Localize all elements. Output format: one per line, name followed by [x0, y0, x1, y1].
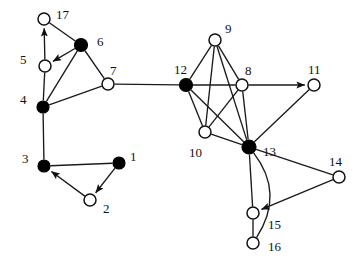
graph-edge — [49, 86, 102, 105]
graph-edge — [46, 51, 77, 101]
graph-node-label-14: 14 — [329, 155, 342, 168]
graph-node-label-13: 13 — [263, 145, 276, 158]
graph-node-label-5: 5 — [20, 53, 27, 66]
graph-edge — [85, 51, 104, 79]
graph-edge — [261, 180, 333, 210]
graph-node-label-12: 12 — [174, 63, 187, 76]
graph-edge — [189, 91, 203, 125]
graph-edge — [51, 171, 84, 196]
graph-edge — [49, 23, 75, 41]
graph-node-16[interactable] — [247, 237, 259, 249]
graph-node-label-2: 2 — [103, 202, 110, 215]
graph-figure: 1234567891011121314151617 — [0, 0, 364, 261]
graph-edge — [114, 84, 179, 85]
graph-node-label-4: 4 — [20, 93, 27, 106]
graph-edge — [96, 168, 115, 193]
graph-edge — [190, 45, 212, 79]
graph-node-label-7: 7 — [110, 64, 117, 77]
graph-node-label-15: 15 — [268, 218, 281, 231]
graph-node-label-10: 10 — [189, 146, 202, 159]
graph-edge — [43, 113, 44, 159]
graph-node-label-1: 1 — [130, 150, 137, 163]
graph-edge — [254, 89, 309, 141]
graph-edge — [249, 154, 252, 206]
graph-node-label-11: 11 — [308, 63, 321, 76]
graph-node-1[interactable] — [113, 157, 125, 169]
graph-node-5[interactable] — [39, 60, 51, 72]
graph-edge — [44, 28, 45, 59]
graph-node-17[interactable] — [38, 13, 50, 25]
graph-edge — [50, 163, 112, 165]
graph-canvas — [0, 0, 364, 261]
graph-node-label-8: 8 — [245, 64, 252, 77]
graph-node-6[interactable] — [75, 39, 88, 52]
node-layer — [37, 13, 345, 249]
graph-node-label-17: 17 — [56, 8, 69, 21]
graph-node-label-9: 9 — [225, 22, 232, 35]
graph-node-14[interactable] — [333, 171, 345, 183]
graph-node-11[interactable] — [308, 79, 320, 91]
graph-node-9[interactable] — [209, 34, 221, 46]
graph-node-label-3: 3 — [22, 152, 29, 165]
graph-node-15[interactable] — [247, 207, 259, 219]
graph-edge — [206, 46, 215, 125]
graph-node-10[interactable] — [199, 126, 211, 138]
graph-node-13[interactable] — [242, 140, 256, 154]
graph-edge — [243, 91, 248, 139]
graph-edge — [218, 46, 238, 80]
graph-node-8[interactable] — [236, 79, 248, 91]
graph-node-label-6: 6 — [97, 35, 104, 48]
graph-node-2[interactable] — [84, 194, 96, 206]
graph-edge — [43, 72, 44, 100]
graph-node-label-16: 16 — [268, 240, 281, 253]
graph-node-4[interactable] — [37, 101, 49, 113]
graph-node-3[interactable] — [38, 160, 50, 172]
graph-node-12[interactable] — [180, 79, 193, 92]
graph-node-7[interactable] — [102, 78, 114, 90]
